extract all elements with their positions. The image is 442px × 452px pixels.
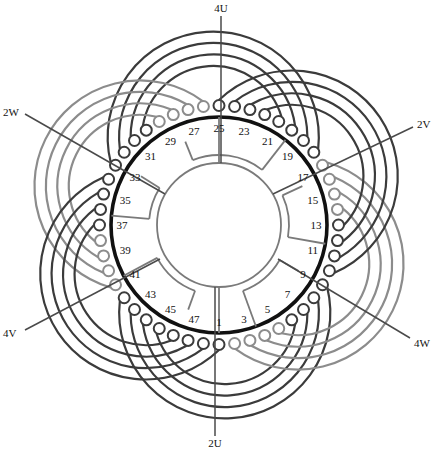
- slot-number-label: 5: [265, 303, 271, 315]
- terminal-circle: [98, 250, 109, 261]
- lead-line-2v: [273, 127, 413, 194]
- terminal-circle: [259, 109, 270, 120]
- slot-number-label: 17: [298, 171, 310, 183]
- terminal-circle: [214, 100, 225, 111]
- terminal-circle: [119, 292, 130, 303]
- terminal-circle: [333, 220, 344, 231]
- jumper-connector: [288, 237, 325, 244]
- jumper-arc: [243, 260, 280, 291]
- stator-winding-diagram: 4U2V4W2U4V2W 135791113151719212325272931…: [0, 0, 442, 452]
- slot-number-label: 9: [300, 268, 306, 280]
- terminal-circle: [198, 101, 209, 112]
- terminal-circle: [154, 116, 165, 127]
- terminal-circle: [103, 265, 114, 276]
- terminal-circle: [119, 147, 130, 158]
- jumper-arc: [157, 258, 195, 291]
- slot-number-label: 1: [216, 316, 222, 328]
- terminal-circle: [286, 125, 297, 136]
- terminal-circle: [129, 135, 140, 146]
- lead-label-2u: 2U: [208, 437, 222, 449]
- terminal-circle: [298, 304, 309, 315]
- slot-number-label: 31: [145, 150, 156, 162]
- terminal-circle: [324, 265, 335, 276]
- terminal-circle: [332, 235, 343, 246]
- terminal-circle: [329, 189, 340, 200]
- terminal-circle: [95, 204, 106, 215]
- slot-number-label: 45: [165, 303, 177, 315]
- slot-number-label: 47: [188, 313, 200, 325]
- terminal-circle: [244, 104, 255, 115]
- slot-number-label: 43: [145, 288, 157, 300]
- terminal-circle: [259, 330, 270, 341]
- stator-core-layer: [111, 117, 327, 333]
- slot-number-label: 7: [285, 288, 291, 300]
- terminal-circle: [229, 101, 240, 112]
- lead-label-2w: 2W: [3, 106, 20, 118]
- terminal-circle: [183, 335, 194, 346]
- lead-label-4w: 4W: [414, 337, 431, 349]
- inner-ring-circle: [157, 163, 281, 287]
- terminal-circle: [286, 314, 297, 325]
- slot-number-label: 35: [120, 194, 132, 206]
- lead-label-2v: 2V: [417, 118, 431, 130]
- slot-number-label: 29: [165, 135, 177, 147]
- lead-label-4v: 4V: [3, 327, 17, 339]
- terminal-circle: [94, 220, 105, 231]
- terminal-circle: [129, 304, 140, 315]
- slot-number-label: 21: [262, 135, 273, 147]
- terminal-circle: [103, 174, 114, 185]
- slot-number-label: 15: [307, 194, 319, 206]
- slot-number-label: 11: [307, 244, 318, 256]
- slot-number-label: 3: [241, 313, 247, 325]
- terminal-circle: [198, 338, 209, 349]
- terminal-circle: [98, 189, 109, 200]
- terminal-circle: [183, 104, 194, 115]
- terminal-circle: [229, 338, 240, 349]
- slot-number-label: 33: [130, 171, 142, 183]
- slot-number-label: 25: [214, 122, 226, 134]
- jumper-arc: [193, 155, 262, 170]
- slot-number-label: 41: [130, 268, 141, 280]
- terminal-circle: [273, 323, 284, 334]
- terminal-circle: [324, 174, 335, 185]
- jumper-arc: [282, 195, 289, 237]
- terminal-circle: [141, 314, 152, 325]
- terminal-circle: [298, 135, 309, 146]
- slot-number-label: 13: [311, 219, 323, 231]
- terminal-circle: [168, 109, 179, 120]
- terminal-circle: [244, 335, 255, 346]
- slot-number-label: 39: [120, 244, 132, 256]
- jumper-connector: [185, 142, 192, 161]
- terminal-circle: [154, 323, 165, 334]
- terminal-circle: [273, 116, 284, 127]
- coil-arcs-layer: [34, 32, 403, 419]
- terminal-circle: [332, 204, 343, 215]
- terminal-circle: [95, 235, 106, 246]
- terminal-circle: [168, 330, 179, 341]
- slot-number-label: 19: [282, 150, 294, 162]
- terminal-circle: [141, 125, 152, 136]
- terminal-circle: [308, 292, 319, 303]
- jumper-connector: [188, 291, 195, 310]
- slot-number-label: 27: [188, 125, 200, 137]
- lead-label-4u: 4U: [214, 2, 228, 14]
- slot-number-label: 23: [239, 125, 251, 137]
- terminal-circle: [308, 147, 319, 158]
- slot-number-label: 37: [117, 219, 129, 231]
- terminal-circle: [329, 250, 340, 261]
